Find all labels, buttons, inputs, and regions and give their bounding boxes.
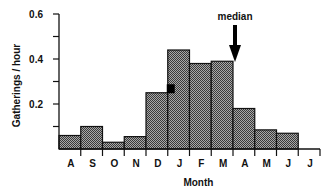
x-tick-label: M xyxy=(219,158,227,169)
median-arrow-head-icon xyxy=(229,45,241,62)
bar-9 xyxy=(255,130,277,149)
bar-6 xyxy=(190,64,212,150)
x-tick-label: A xyxy=(241,158,248,169)
data-marker-square xyxy=(167,84,175,93)
bars-group xyxy=(59,50,298,149)
bar-8 xyxy=(233,109,255,150)
median-arrow-shaft xyxy=(233,25,237,47)
y-axis-title: Gatherings / hour xyxy=(11,44,22,127)
histogram-chart: 0.20.40.6ASONDJFMAMJJMonthGatherings / h… xyxy=(0,0,333,193)
x-tick-label: F xyxy=(198,158,204,169)
median-label: median xyxy=(217,11,252,22)
x-tick-label: D xyxy=(154,158,161,169)
x-tick-label: A xyxy=(67,158,74,169)
x-tick-label: N xyxy=(133,158,140,169)
x-tick-label: J xyxy=(177,158,183,169)
bar-10 xyxy=(277,133,299,149)
x-tick-label: O xyxy=(110,158,118,169)
bar-5 xyxy=(168,50,190,149)
bar-0 xyxy=(59,136,81,150)
x-tick-label: J xyxy=(286,158,292,169)
y-tick-label: 0.2 xyxy=(29,99,43,110)
y-tick-label: 0.4 xyxy=(29,54,43,65)
bar-7 xyxy=(211,61,233,149)
x-tick-label: M xyxy=(262,158,270,169)
bar-3 xyxy=(124,137,146,149)
y-tick-label: 0.6 xyxy=(29,9,43,20)
bar-2 xyxy=(103,142,125,149)
x-tick-label: S xyxy=(89,158,96,169)
x-axis-title: Month xyxy=(183,177,213,188)
bar-4 xyxy=(146,93,168,149)
x-tick-label: J xyxy=(307,158,313,169)
bar-1 xyxy=(81,127,103,150)
